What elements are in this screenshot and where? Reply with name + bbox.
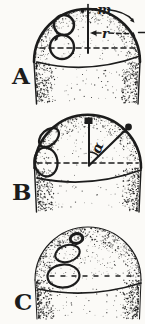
panel-b-letter: B (12, 178, 31, 205)
panel-c-letter: C (14, 288, 32, 315)
dome-outline (35, 227, 141, 280)
rim-curve (37, 56, 140, 67)
dome-side-right (140, 280, 142, 319)
alpha-label: α (88, 139, 107, 155)
polar-body-dot (81, 9, 85, 13)
nucleus-upper-circle (54, 15, 74, 35)
apex-marker-square (85, 118, 93, 125)
panel-c: C (0, 216, 145, 324)
r-dashed-line (109, 33, 131, 34)
dome-side-left (35, 168, 37, 212)
spindle-end-dot (125, 124, 132, 131)
panel-a-drawing: m r A (0, 0, 145, 108)
polar-body-ring (69, 232, 83, 244)
panel-b-drawing: α B (0, 108, 145, 216)
panel-c-drawing: C (0, 216, 145, 324)
panel-a: m r A (0, 0, 145, 108)
panel-a-letter: A (11, 62, 31, 89)
panel-b: α B (0, 108, 145, 216)
nucleus-lower-circle (50, 35, 74, 59)
